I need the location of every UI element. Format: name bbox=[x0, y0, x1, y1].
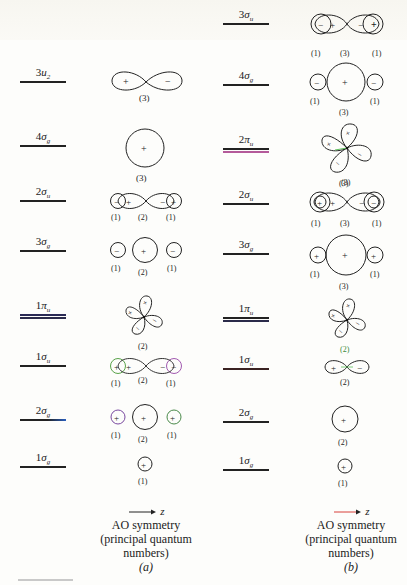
svg-text:+: + bbox=[341, 462, 346, 472]
svg-text:(3): (3) bbox=[339, 282, 349, 291]
svg-text:(1): (1) bbox=[166, 213, 176, 222]
level-bar bbox=[223, 84, 269, 86]
caption-a: z AO symmetry (principal quantum numbers… bbox=[90, 504, 202, 574]
svg-text:−: − bbox=[318, 20, 323, 30]
orbital-cloverleaf-1pu: + + − − (2) bbox=[122, 293, 172, 353]
energy-level-2pu: 2πu bbox=[223, 134, 269, 150]
svg-text:−: − bbox=[160, 197, 165, 207]
svg-text:(1): (1) bbox=[167, 264, 177, 273]
svg-text:(1): (1) bbox=[111, 213, 121, 222]
svg-text:+: + bbox=[171, 197, 176, 207]
level-bar bbox=[223, 253, 269, 255]
svg-text:+: + bbox=[123, 76, 129, 87]
level-bar-degenerate bbox=[223, 148, 269, 150]
svg-text:(3): (3) bbox=[136, 173, 147, 183]
svg-text:(1): (1) bbox=[138, 477, 148, 486]
svg-text:−: − bbox=[165, 76, 171, 87]
svg-text:(3): (3) bbox=[139, 93, 150, 103]
figure-caption-cut-off bbox=[18, 579, 73, 581]
orbital-small-circle-1sg: + (1) bbox=[136, 456, 160, 490]
svg-text:(2): (2) bbox=[138, 435, 148, 444]
svg-text:(1): (1) bbox=[311, 219, 321, 228]
svg-text:+: + bbox=[317, 198, 322, 208]
arrow-right-icon bbox=[127, 508, 157, 516]
orbital-s-p-s-3su: − + − + (1) (3) (1) bbox=[309, 12, 385, 58]
svg-text:+: + bbox=[342, 250, 348, 261]
energy-level-1su: 1σu bbox=[223, 354, 269, 370]
svg-text:(2): (2) bbox=[138, 376, 148, 385]
svg-text:+: + bbox=[141, 298, 150, 308]
svg-text:(1): (1) bbox=[372, 219, 382, 228]
svg-text:+: + bbox=[341, 415, 346, 425]
energy-level-3sg: 3σg bbox=[223, 239, 269, 255]
svg-text:−: − bbox=[114, 197, 119, 207]
energy-level-1pu: 1πu bbox=[223, 303, 269, 319]
level-bar-degenerate bbox=[223, 317, 269, 319]
energy-level-1pu: 1πu bbox=[20, 300, 66, 316]
level-bar bbox=[20, 81, 66, 83]
orbital-figure-eight-3u2: + − (3) bbox=[108, 64, 184, 104]
svg-text:(1): (1) bbox=[111, 264, 121, 273]
level-bar bbox=[20, 365, 66, 367]
svg-text:−: − bbox=[371, 198, 376, 208]
svg-text:(1): (1) bbox=[370, 97, 380, 106]
orbital-s-p-s-2su: − + − + (1) (2) (1) bbox=[110, 190, 184, 224]
orbital-s-p-s-2su: + + − − (1) (3) (1) bbox=[309, 190, 385, 228]
z-axis-arrow: z bbox=[294, 504, 407, 518]
svg-text:(1): (1) bbox=[111, 379, 121, 388]
svg-text:(1): (1) bbox=[311, 49, 321, 58]
energy-level-1sg: 1σg bbox=[223, 455, 269, 471]
caption-b: z AO symmetry (principal quantum numbers… bbox=[294, 504, 407, 574]
svg-text:(3): (3) bbox=[339, 108, 349, 117]
orbital-s-s-s-2sg: + + + (1) (2) (1) bbox=[110, 405, 184, 447]
energy-level-4sg: 4σg bbox=[223, 70, 269, 86]
energy-level-3u2: 3u2 bbox=[20, 67, 66, 83]
level-bar bbox=[20, 200, 66, 202]
level-bar bbox=[223, 368, 269, 370]
orbital-s-s-s-3sg: + + + (1) (3) (1) bbox=[309, 234, 385, 294]
energy-level-2su: 2σu bbox=[223, 189, 269, 205]
level-bar bbox=[20, 419, 66, 421]
svg-text:+: + bbox=[330, 198, 335, 208]
qn-top-1su: (2) bbox=[340, 345, 349, 354]
svg-text:+: + bbox=[126, 362, 131, 372]
svg-text:(1): (1) bbox=[111, 431, 121, 440]
energy-level-2sg: 2σg bbox=[20, 405, 66, 421]
level-bar bbox=[20, 145, 66, 147]
level-bar-degenerate bbox=[20, 314, 66, 316]
svg-text:−: − bbox=[160, 362, 165, 372]
energy-level-1sg: 1σg bbox=[20, 452, 66, 468]
svg-text:−: − bbox=[371, 78, 376, 88]
energy-level-2su: 2σu bbox=[20, 186, 66, 202]
energy-level-1su: 1σu bbox=[20, 351, 66, 367]
svg-text:(1): (1) bbox=[167, 431, 177, 440]
svg-text:(2): (2) bbox=[338, 438, 348, 447]
svg-text:−: − bbox=[314, 78, 319, 88]
svg-text:+: + bbox=[141, 413, 146, 423]
orbital-large-circle-4sg: + (3) bbox=[125, 128, 165, 186]
level-bar bbox=[223, 469, 269, 471]
svg-text:−: − bbox=[333, 159, 343, 169]
orbital-s-s-s-4sg: − + − (1) (3) (1) bbox=[309, 64, 385, 120]
svg-text:+: + bbox=[114, 413, 119, 423]
energy-level-3sg: 3σg bbox=[20, 236, 66, 252]
svg-text:+: + bbox=[330, 20, 335, 30]
level-bar bbox=[223, 421, 269, 423]
svg-text:(2): (2) bbox=[138, 342, 148, 351]
svg-text:−: − bbox=[357, 363, 362, 373]
svg-text:+: + bbox=[170, 413, 175, 423]
svg-text:(1): (1) bbox=[338, 479, 348, 488]
svg-text:(2): (2) bbox=[138, 268, 148, 277]
svg-text:+: + bbox=[314, 251, 319, 261]
level-bar bbox=[223, 23, 269, 25]
svg-text:+: + bbox=[371, 251, 376, 261]
svg-text:(1): (1) bbox=[310, 270, 320, 279]
svg-text:+: + bbox=[344, 128, 353, 138]
orbital-s-p-s-1su: + + − − (1) (2) (1) bbox=[110, 355, 184, 389]
svg-text:−: − bbox=[171, 362, 176, 372]
svg-text:+: + bbox=[141, 246, 146, 256]
orbital-s-s-s-3sg: − + − (1) (2) (1) bbox=[110, 238, 184, 280]
svg-text:+: + bbox=[126, 308, 135, 318]
energy-level-2sg: 2σg bbox=[223, 407, 269, 423]
svg-text:(1): (1) bbox=[372, 49, 382, 58]
